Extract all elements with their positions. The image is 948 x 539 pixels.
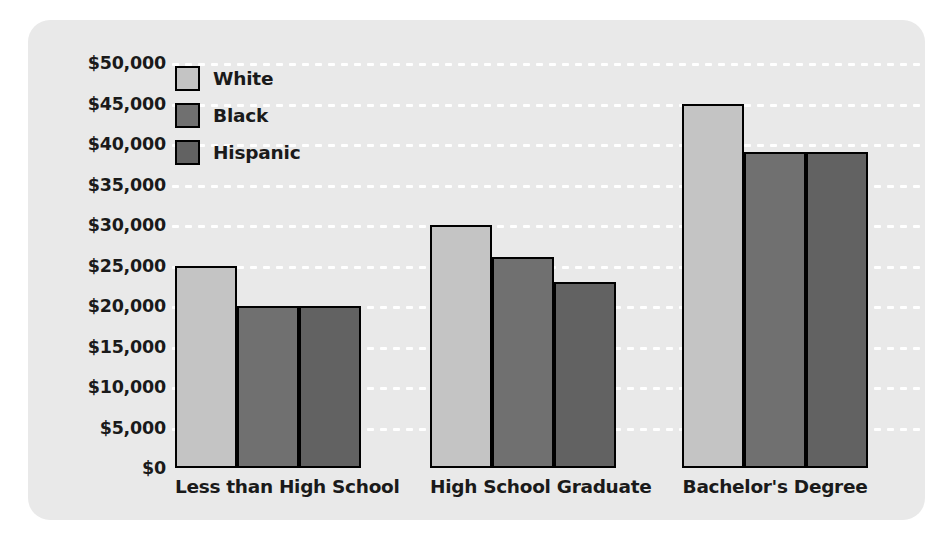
x-axis-group-label: High School Graduate [430, 476, 616, 497]
y-axis-tick-label: $10,000 [46, 377, 166, 397]
legend-swatch-black [175, 103, 200, 128]
y-axis-tick-label: $15,000 [46, 337, 166, 357]
bar-hispanic-2 [806, 152, 868, 468]
legend: WhiteBlackHispanic [175, 60, 365, 171]
bar-black-0 [237, 306, 299, 468]
legend-item-black: Black [175, 97, 365, 134]
y-axis-ticks: $0$5,000$10,000$15,000$20,000$25,000$30,… [38, 63, 166, 468]
y-axis-tick-label: $45,000 [46, 94, 166, 114]
legend-swatch-white [175, 66, 200, 91]
bar-white-0 [175, 266, 237, 469]
legend-item-hispanic: Hispanic [175, 134, 365, 171]
legend-item-white: White [175, 60, 365, 97]
y-axis-tick-label: $40,000 [46, 134, 166, 154]
legend-label: Black [213, 105, 268, 126]
bar-black-2 [744, 152, 806, 468]
y-axis-tick-label: $25,000 [46, 256, 166, 276]
bar-hispanic-1 [554, 282, 616, 468]
y-axis-tick-label: $0 [46, 458, 166, 478]
x-axis-group-label: Bachelor's Degree [682, 476, 868, 497]
y-axis-tick-label: $35,000 [46, 175, 166, 195]
x-axis-group-label: Less than High School [175, 476, 361, 497]
bar-hispanic-0 [299, 306, 361, 468]
chart-screenshot: $0$5,000$10,000$15,000$20,000$25,000$30,… [0, 0, 948, 539]
bar-black-1 [492, 257, 554, 468]
x-axis-baseline [142, 531, 929, 536]
y-axis-tick-label: $5,000 [46, 418, 166, 438]
legend-label: Hispanic [213, 142, 300, 163]
y-axis-tick-label: $20,000 [46, 296, 166, 316]
legend-label: White [213, 68, 273, 89]
bar-white-2 [682, 104, 744, 469]
y-axis-tick-label: $30,000 [46, 215, 166, 235]
y-axis-tick-label: $50,000 [46, 53, 166, 73]
legend-swatch-hispanic [175, 140, 200, 165]
bar-white-1 [430, 225, 492, 468]
